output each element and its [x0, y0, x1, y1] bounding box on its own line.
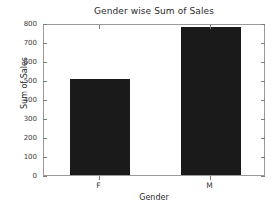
- y-tick-mark: [43, 81, 47, 82]
- bar-m: [181, 27, 241, 175]
- y-tick-mark: [43, 43, 47, 44]
- y-tick-mark-right: [261, 138, 265, 139]
- y-tick-mark-right: [261, 24, 265, 25]
- y-tick-mark: [43, 100, 47, 101]
- y-tick-mark-right: [261, 176, 265, 177]
- x-tick-label-m: M: [190, 181, 230, 190]
- y-tick-mark-right: [261, 81, 265, 82]
- plot-area: [43, 24, 265, 176]
- y-tick-mark: [43, 138, 47, 139]
- x-tick-mark: [210, 176, 211, 180]
- x-tick-mark-top: [99, 25, 100, 29]
- y-tick-mark: [43, 24, 47, 25]
- y-tick-mark-right: [261, 157, 265, 158]
- y-tick-mark-right: [261, 43, 265, 44]
- x-tick-mark: [99, 176, 100, 180]
- x-axis-label: Gender: [43, 193, 265, 202]
- chart-title: Gender wise Sum of Sales: [43, 6, 265, 16]
- y-tick-mark-right: [261, 62, 265, 63]
- y-tick-label: 600: [1, 58, 37, 66]
- y-tick-label: 0: [1, 172, 37, 180]
- y-tick-label: 200: [1, 134, 37, 142]
- y-tick-mark: [43, 176, 47, 177]
- y-tick-mark: [43, 157, 47, 158]
- x-tick-mark-top: [210, 25, 211, 29]
- chart-figure: Gender wise Sum of Sales Sum of Sales 01…: [0, 0, 280, 212]
- y-tick-mark-right: [261, 100, 265, 101]
- bars-layer: [44, 25, 264, 175]
- y-tick-label: 300: [1, 115, 37, 123]
- x-tick-label-f: F: [79, 181, 119, 190]
- y-tick-mark-right: [261, 119, 265, 120]
- y-tick-label: 500: [1, 77, 37, 85]
- bar-f: [70, 79, 130, 175]
- y-tick-label: 100: [1, 153, 37, 161]
- y-tick-label: 800: [1, 20, 37, 28]
- y-tick-label: 400: [1, 96, 37, 104]
- y-tick-label: 700: [1, 39, 37, 47]
- y-tick-mark: [43, 119, 47, 120]
- y-tick-mark: [43, 62, 47, 63]
